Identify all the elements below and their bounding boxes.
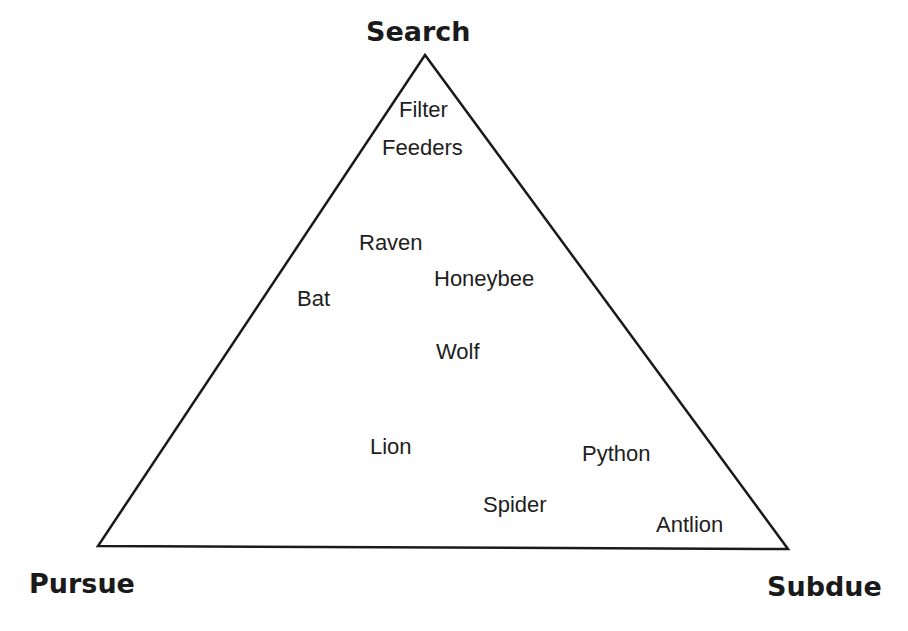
item-label-bat: Bat <box>297 288 330 310</box>
item-label-feeders: Feeders <box>382 137 463 159</box>
item-label-antlion: Antlion <box>656 514 723 536</box>
vertex-label-subdue: Subdue <box>767 573 882 600</box>
item-label-spider: Spider <box>483 494 547 516</box>
item-label-raven: Raven <box>359 232 423 254</box>
vertex-label-pursue: Pursue <box>29 570 135 597</box>
vertex-label-search: Search <box>366 18 471 45</box>
item-label-lion: Lion <box>370 436 412 458</box>
item-label-filter: Filter <box>399 99 448 121</box>
ternary-triangle <box>0 0 908 631</box>
item-label-python: Python <box>582 443 651 465</box>
item-label-honeybee: Honeybee <box>434 268 534 290</box>
item-label-wolf: Wolf <box>436 341 480 363</box>
